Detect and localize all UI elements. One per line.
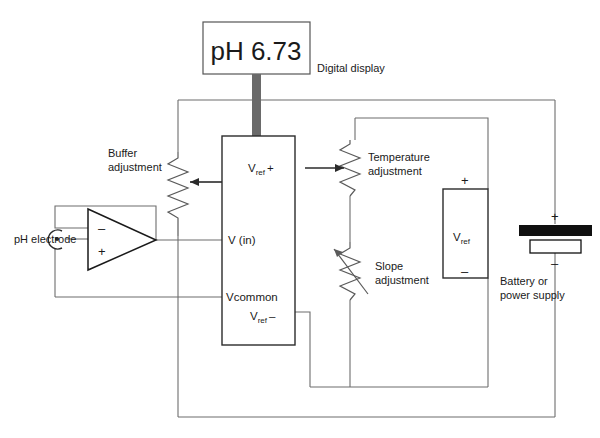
buffer-adjustment-potentiometer[interactable] (168, 152, 222, 236)
battery-negative-plate (530, 240, 581, 253)
digital-display-caption: Digital display (317, 62, 385, 74)
temperature-adjustment-potentiometer[interactable] (305, 140, 360, 196)
digital-display-reading: pH 6.73 (210, 36, 301, 66)
buffer-pot-wiper-arrow-icon (190, 178, 199, 186)
slope-pot-wiper-line (334, 249, 368, 294)
diagram-canvas: Buffer adjustment Temperature adjustment… (0, 0, 600, 438)
buffer-adjustment-label-line1: Buffer (108, 147, 137, 159)
battery-symbol (519, 225, 592, 253)
vref-source-minus-sign: – (461, 264, 469, 279)
vref-source-plus-sign: + (461, 173, 469, 188)
battery-plus-sign: + (551, 209, 559, 224)
buffer-opamp (88, 209, 156, 270)
battery-positive-plate (519, 225, 592, 236)
terminal-v-in-label: V (in) (228, 234, 256, 246)
display-ribbon-cable (252, 74, 261, 137)
buffer-adjustment-label-line2: adjustment (108, 161, 162, 173)
battery-label-line2: power supply (500, 289, 565, 301)
slope-adjustment-potentiometer[interactable] (334, 242, 368, 300)
ph-meter-circuit-diagram: Buffer adjustment Temperature adjustment… (0, 0, 600, 438)
terminal-vcommon-label: Vcommon (226, 291, 278, 303)
buffer-pot-resistor (168, 152, 188, 236)
temperature-adjustment-label-line2: adjustment (368, 165, 422, 177)
opamp-inverting-input-label: – (98, 221, 106, 236)
slope-adjustment-label-line1: Slope (375, 260, 403, 272)
slope-adjustment-label-line2: adjustment (375, 274, 429, 286)
battery-minus-sign: – (551, 256, 559, 271)
temperature-adjustment-label-line1: Temperature (368, 151, 430, 163)
ph-electrode-label: pH electrode (14, 233, 76, 245)
opamp-noninverting-input-label: + (98, 244, 106, 259)
wire-vrefminus-lead (295, 312, 310, 387)
battery-label-line1: Battery or (500, 275, 548, 287)
